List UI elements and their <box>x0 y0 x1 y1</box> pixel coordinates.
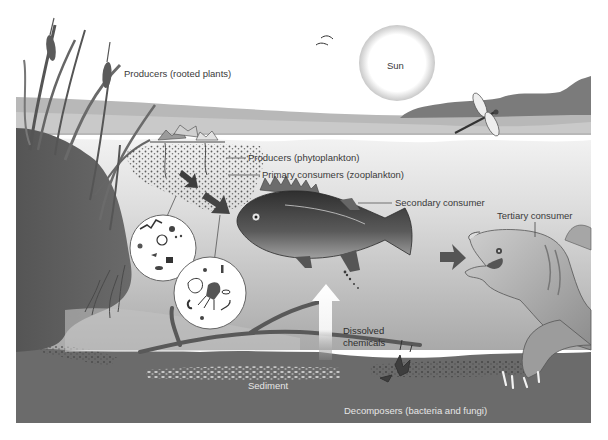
producers-rooted-plants-label: Producers (rooted plants) <box>124 69 231 79</box>
sediment-label: Sediment <box>248 381 288 391</box>
decomposers-label: Decomposers (bacteria and fungi) <box>344 406 487 416</box>
sediment-bed <box>145 366 340 380</box>
secondary-consumer-label: Secondary consumer <box>395 198 485 208</box>
dissolved-chemicals-label-line1: Dissolved <box>343 326 384 336</box>
dissolved-chemicals-label-line2: chemicals <box>343 338 385 348</box>
tertiary-consumer-label: Tertiary consumer <box>497 211 573 221</box>
zooplankton-magnified <box>174 257 246 329</box>
sun-label: Sun <box>387 61 404 71</box>
primary-consumers-label: Primary consumers (zooplankton) <box>262 170 404 180</box>
producers-phytoplankton-label: Producers (phytoplankton) <box>248 153 359 163</box>
